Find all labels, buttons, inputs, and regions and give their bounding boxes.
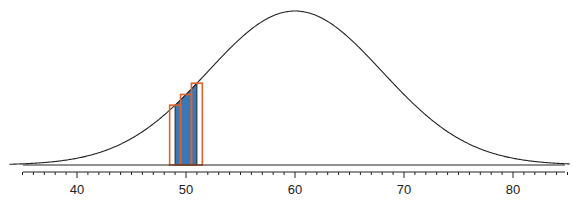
- x-tick-label: 80: [506, 182, 520, 197]
- shaded-region: [175, 83, 197, 165]
- x-axis: 4050607080: [23, 172, 568, 197]
- curve: [9, 11, 569, 164]
- x-tick-label: 40: [70, 182, 84, 197]
- x-tick-label: 60: [288, 182, 302, 197]
- density-curve: [9, 11, 569, 164]
- shaded-area: [175, 83, 197, 165]
- x-tick-label: 50: [179, 182, 193, 197]
- normal-curve-chart: 4050607080: [0, 0, 580, 208]
- x-tick-label: 70: [397, 182, 411, 197]
